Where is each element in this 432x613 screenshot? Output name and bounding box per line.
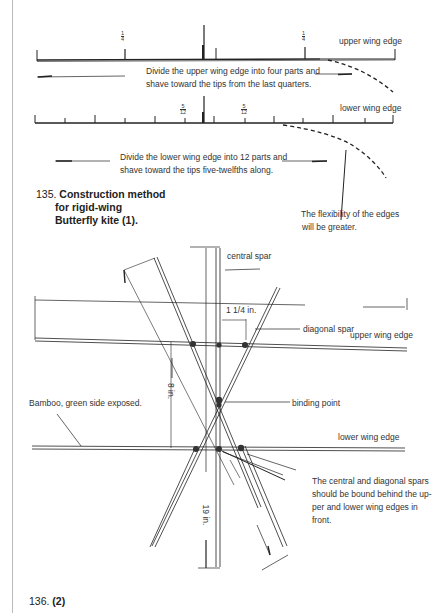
binding-note-line1: The central and diagonal spars bbox=[312, 476, 429, 487]
lower-fraction-right: 5 12 bbox=[240, 104, 248, 115]
upper-flex-curve bbox=[328, 60, 393, 92]
spacing-dimension-label: 1 1/4 in. bbox=[226, 305, 256, 316]
binding-point-label: binding point bbox=[292, 398, 340, 409]
lower-wing-edge-spar-label: lower wing edge bbox=[338, 432, 399, 443]
lower-diagonal-right bbox=[241, 446, 287, 547]
binding-note-line3: per and lower wing edges in bbox=[312, 502, 418, 513]
bamboo-leader bbox=[57, 414, 81, 446]
lower-diagonal-left bbox=[150, 446, 196, 547]
caption-number: 136. bbox=[29, 595, 49, 607]
lower-instruction-line1: Divide the lower wing edge into 12 parts… bbox=[120, 152, 287, 163]
caption-number: 135. bbox=[36, 188, 56, 200]
lower-wing-edge-label: lower wing edge bbox=[340, 103, 401, 114]
bamboo-note: Bamboo, green side exposed. bbox=[29, 398, 142, 409]
binding-note-line4: front. bbox=[312, 515, 331, 526]
caption-line: for rigid-wing bbox=[55, 201, 122, 213]
figure-135-caption-cont: for rigid-wing bbox=[55, 201, 122, 214]
flex-note-line1: The flexibility of the edges bbox=[301, 209, 399, 220]
figure-135-caption: 135. Construction method bbox=[36, 188, 166, 201]
central-spar-leader bbox=[225, 269, 260, 270]
upper-fraction-left: 1 4 bbox=[120, 31, 125, 42]
caption-line: Construction method bbox=[59, 188, 165, 200]
flex-note-line2: will be greater. bbox=[302, 222, 357, 233]
dimension-8in: 8 in. bbox=[166, 383, 176, 399]
diagonal-spar-label: diagonal spar bbox=[303, 324, 354, 335]
figure-136-caption: 136. (2) bbox=[29, 595, 65, 608]
upper-wing-edge-spar-label: upper wing edge bbox=[350, 330, 413, 341]
dimension-19in: 19 in. bbox=[201, 505, 211, 526]
fraction-denominator: 12 bbox=[180, 109, 186, 115]
binding-note-line2: should be bound behind the up- bbox=[312, 489, 432, 500]
lower-fraction-left: 5 12 bbox=[179, 104, 187, 115]
central-spar-label: central spar bbox=[227, 251, 271, 262]
caption-label: (2) bbox=[52, 595, 65, 607]
lower-flex-curve bbox=[283, 125, 386, 178]
fraction-denominator: 4 bbox=[121, 36, 124, 42]
fraction-denominator: 4 bbox=[302, 36, 305, 42]
lower-instruction-line2: shave toward the tips five-twelfths alon… bbox=[120, 165, 273, 176]
caption-line: Butterfly kite (1). bbox=[55, 214, 138, 226]
upper-fraction-right: 1 4 bbox=[301, 31, 306, 42]
upper-wing-edge-label: upper wing edge bbox=[339, 36, 402, 47]
figure-135-caption-cont2: Butterfly kite (1). bbox=[55, 214, 138, 227]
upper-instruction-line1: Divide the upper wing edge into four par… bbox=[146, 66, 320, 77]
fraction-denominator: 12 bbox=[241, 109, 247, 115]
upper-instruction-line2: shave toward the tips from the last quar… bbox=[146, 79, 311, 90]
